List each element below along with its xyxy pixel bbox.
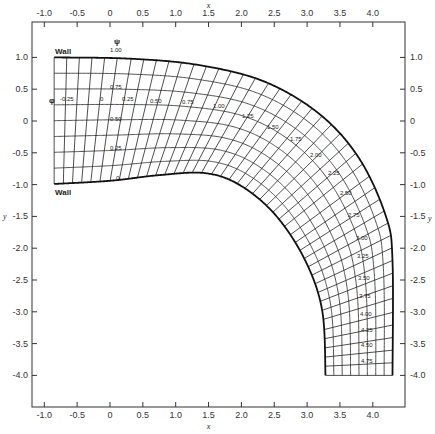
left-y-tick-label: 1.0 xyxy=(15,52,28,62)
phi-label: 3.00 xyxy=(356,235,368,241)
right-y-tick-label: -4.0 xyxy=(410,370,426,380)
inner-wall xyxy=(54,173,325,376)
phi-label: 2.25 xyxy=(328,170,340,176)
bottom-x-tick-label: 4.0 xyxy=(367,410,380,420)
phi-label: 1.25 xyxy=(242,113,254,119)
phi-label: 2.75 xyxy=(348,212,360,218)
left-y-tick-label: -3.5 xyxy=(12,339,28,349)
equipotential-line xyxy=(308,223,388,267)
top-x-tick-label: 0 xyxy=(107,8,112,18)
phi-label: 1.75 xyxy=(290,136,302,142)
phi-label: 2.50 xyxy=(340,190,352,196)
right-y-tick-label: -1.5 xyxy=(410,211,426,221)
top-x-tick-label: -0.5 xyxy=(69,8,85,18)
top-x-tick-label: 3.0 xyxy=(301,8,314,18)
psi-label: 1.00 xyxy=(110,47,122,53)
left-y-tick-label: -4.0 xyxy=(12,370,28,380)
top-x-tick-label: 4.0 xyxy=(367,8,380,18)
streamline xyxy=(54,134,350,376)
bottom-x-tick-label: 3.0 xyxy=(301,410,314,420)
equipotential-line xyxy=(192,74,243,172)
left-y-tick-label: 0.5 xyxy=(15,84,28,94)
phi-label: 4.25 xyxy=(361,327,373,333)
phi-label: -0.25 xyxy=(60,96,74,102)
left-y-axis-title: y xyxy=(2,212,7,221)
left-y-tick-label: -2.0 xyxy=(12,243,28,253)
phi-symbol: φ xyxy=(49,96,55,105)
right-y-tick-label: -3.5 xyxy=(410,339,426,349)
equipotential-line xyxy=(279,153,356,219)
top-x-axis-title: x xyxy=(206,1,211,10)
streamline xyxy=(54,73,384,375)
bottom-x-tick-label: 1.5 xyxy=(202,410,215,420)
top-x-tick-label: 1.0 xyxy=(169,8,182,18)
left-y-tick-label: -0.5 xyxy=(12,148,28,158)
right-y-tick-label: -2.5 xyxy=(410,275,426,285)
phi-label: 2.00 xyxy=(310,152,322,158)
equipotential-line xyxy=(174,69,219,174)
right-y-axis-title: y xyxy=(427,214,432,223)
psi-label: 0.25 xyxy=(110,145,122,151)
bottom-x-tick-label: 0.5 xyxy=(137,410,150,420)
equipotential-line xyxy=(300,199,380,250)
streamline xyxy=(54,160,334,375)
left-y-tick-label: -2.5 xyxy=(12,275,28,285)
left-y-tick-label: 0 xyxy=(23,116,28,126)
top-x-tick-label: 2.0 xyxy=(235,8,248,18)
phi-label: 3.75 xyxy=(359,293,371,299)
top-x-tick-label: 0.5 xyxy=(137,8,150,18)
phi-label: 4.00 xyxy=(360,311,372,317)
bottom-x-tick-label: 0 xyxy=(107,410,112,420)
right-y-tick-label: 1.0 xyxy=(410,52,423,62)
phi-label: 4.50 xyxy=(361,342,373,348)
streamline xyxy=(54,104,367,375)
left-y-tick-label: -1.0 xyxy=(12,180,28,190)
right-y-tick-label: -1.0 xyxy=(410,180,426,190)
wall-top-label: Wall xyxy=(55,47,71,56)
bottom-x-axis-title: x xyxy=(206,422,211,431)
top-x-tick-label: 2.5 xyxy=(268,8,281,18)
left-y-tick-label: -3.0 xyxy=(12,307,28,317)
phi-label: 0.50 xyxy=(150,98,162,104)
phi-label: 1.50 xyxy=(267,124,279,130)
phi-label: 1.00 xyxy=(213,103,225,109)
bottom-x-tick-label: -0.5 xyxy=(69,410,85,420)
bottom-x-tick-label: -1.0 xyxy=(37,410,53,420)
equipotential-line xyxy=(312,235,391,275)
bottom-x-tick-label: 3.5 xyxy=(334,410,347,420)
phi-label: 0 xyxy=(100,96,104,102)
right-y-tick-label: -0.5 xyxy=(410,148,426,158)
flow-net-chart: WallWallψφ1.000.750.500.250-0.2500.250.5… xyxy=(0,0,435,434)
psi-label: 0.75 xyxy=(110,84,122,90)
right-y-tick-label: 0.5 xyxy=(410,84,423,94)
right-y-tick-label: -2.0 xyxy=(410,243,426,253)
phi-label: 3.50 xyxy=(358,275,370,281)
bottom-x-tick-label: 1.0 xyxy=(169,410,182,420)
equipotential-line xyxy=(183,71,231,173)
right-y-tick-label: -3.0 xyxy=(410,307,426,317)
top-x-tick-label: -1.0 xyxy=(37,8,53,18)
bottom-x-tick-label: 2.0 xyxy=(235,410,248,420)
equipotential-line xyxy=(165,66,207,174)
psi-label: 0.50 xyxy=(110,116,122,122)
phi-label: 0.25 xyxy=(122,96,134,102)
streamline xyxy=(54,89,376,375)
phi-label: 3.25 xyxy=(357,253,369,259)
top-x-tick-label: 3.5 xyxy=(334,8,347,18)
right-y-tick-label: 0 xyxy=(410,116,415,126)
wall-bottom-label: Wall xyxy=(55,188,71,197)
left-y-tick-label: -1.5 xyxy=(12,211,28,221)
psi-symbol: ψ xyxy=(114,37,120,46)
equipotential-line xyxy=(322,286,393,311)
bottom-x-tick-label: 2.5 xyxy=(268,410,281,420)
equipotential-line xyxy=(201,78,255,173)
phi-label: 4.75 xyxy=(361,358,373,364)
phi-label: 0.75 xyxy=(182,99,194,105)
